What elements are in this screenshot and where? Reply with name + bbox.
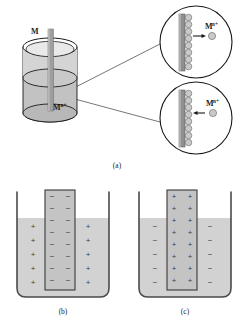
charge-symbol: + <box>86 264 91 273</box>
charge-symbol: − <box>50 252 55 261</box>
charge-symbol: − <box>66 192 71 201</box>
charge-symbol: + <box>188 252 193 261</box>
charge-symbol: − <box>50 204 55 213</box>
surface-atom <box>185 118 192 125</box>
charge-symbol: + <box>86 250 91 259</box>
surface-atom <box>185 90 192 97</box>
charge-symbol: + <box>31 278 36 287</box>
charge-symbol: + <box>188 204 193 213</box>
inset-bottom-circle-border <box>160 82 232 154</box>
caption-a: (a) <box>113 161 122 170</box>
surface-atom <box>185 35 192 42</box>
charge-symbol: − <box>50 192 55 201</box>
charge-symbol: − <box>66 252 71 261</box>
inset-top-free-ion <box>208 32 215 39</box>
surface-atom <box>185 14 192 21</box>
charge-symbol: − <box>66 276 71 285</box>
charge-symbol: − <box>208 278 213 287</box>
charge-symbol: + <box>188 240 193 249</box>
surface-atom <box>185 28 192 35</box>
surface-atom <box>185 56 192 63</box>
charge-symbol: + <box>86 278 91 287</box>
solution-label-sup: n+ <box>61 102 67 108</box>
charge-symbol: + <box>188 192 193 201</box>
charge-symbol: − <box>66 204 71 213</box>
surface-atom <box>185 63 192 70</box>
charge-symbol: − <box>153 236 158 245</box>
charge-symbol: + <box>172 216 177 225</box>
surface-atom <box>185 139 192 146</box>
charge-symbol: − <box>208 222 213 231</box>
charge-symbol: − <box>50 264 55 273</box>
charge-symbol: + <box>31 236 36 245</box>
charge-symbol: + <box>188 276 193 285</box>
surface-atom <box>185 111 192 118</box>
charge-symbol: + <box>172 276 177 285</box>
surface-atom <box>185 49 192 56</box>
charge-symbol: + <box>172 204 177 213</box>
charge-symbol: − <box>208 264 213 273</box>
charge-symbol: + <box>172 192 177 201</box>
charge-symbol: − <box>66 240 71 249</box>
inset-top-electrode-highlight <box>179 14 181 71</box>
charge-symbol: − <box>50 276 55 285</box>
charge-symbol: − <box>66 264 71 273</box>
charge-symbol: − <box>153 278 158 287</box>
charge-symbol: + <box>188 264 193 273</box>
electrode-label: M <box>31 27 39 36</box>
charge-symbol: − <box>50 240 55 249</box>
inset-top-circle-border <box>160 6 232 78</box>
charge-symbol: + <box>86 236 91 245</box>
inset-bottom-free-ion <box>209 109 216 116</box>
charge-symbol: − <box>153 264 158 273</box>
charge-symbol: + <box>31 222 36 231</box>
caption-b: (b) <box>59 307 68 316</box>
charge-symbol: − <box>50 216 55 225</box>
charge-symbol: + <box>172 264 177 273</box>
panel-a: M M n+ <box>23 6 232 170</box>
charge-symbol: − <box>66 228 71 237</box>
charge-symbol: + <box>188 228 193 237</box>
charge-symbol: − <box>50 228 55 237</box>
inset-bottom-electrode-highlight <box>179 90 181 147</box>
charge-symbol: − <box>153 250 158 259</box>
panel-b: −− −− −− −− −− −− −− −− ++ ++ ++ ++ ++ (… <box>17 190 109 316</box>
electrode-bar-highlight <box>48 29 50 111</box>
surface-atom <box>185 97 192 104</box>
charge-symbol: + <box>172 240 177 249</box>
charge-symbol: − <box>208 250 213 259</box>
charge-symbol: − <box>153 222 158 231</box>
charge-symbol: + <box>188 216 193 225</box>
surface-atom <box>185 21 192 28</box>
charge-symbol: + <box>172 228 177 237</box>
charge-symbol: + <box>172 252 177 261</box>
charge-symbol: + <box>31 264 36 273</box>
inset-bottom: M n+ <box>160 82 232 154</box>
inset-top: M n+ <box>160 6 232 78</box>
surface-atom <box>185 132 192 139</box>
inset-top-ion-label-sup: n+ <box>212 21 218 27</box>
surface-atom <box>185 125 192 132</box>
panel-c: ++ ++ ++ ++ ++ ++ ++ ++ −− −− −− −− −− (… <box>139 190 231 316</box>
charge-symbol: + <box>31 250 36 259</box>
charge-symbol: − <box>66 216 71 225</box>
surface-atom <box>185 104 192 111</box>
caption-c: (c) <box>181 307 190 316</box>
charge-symbol: + <box>86 222 91 231</box>
surface-atom <box>185 42 192 49</box>
charge-symbol: − <box>208 236 213 245</box>
electrochemistry-figure: M M n+ <box>0 0 251 321</box>
metal-electrode-strip <box>48 29 54 111</box>
inset-bottom-ion-label-sup: n+ <box>213 98 219 104</box>
